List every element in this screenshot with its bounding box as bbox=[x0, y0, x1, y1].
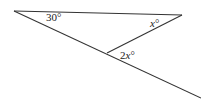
geometry-diagram: 30° x° 2x° bbox=[0, 0, 201, 101]
top-line bbox=[14, 11, 182, 15]
angle-label-2x: 2x° bbox=[120, 49, 135, 61]
angle-label-30: 30° bbox=[46, 11, 61, 23]
angle-label-x: x° bbox=[149, 17, 159, 29]
short-segment-line bbox=[107, 15, 182, 53]
long-diagonal-line bbox=[14, 11, 201, 98]
